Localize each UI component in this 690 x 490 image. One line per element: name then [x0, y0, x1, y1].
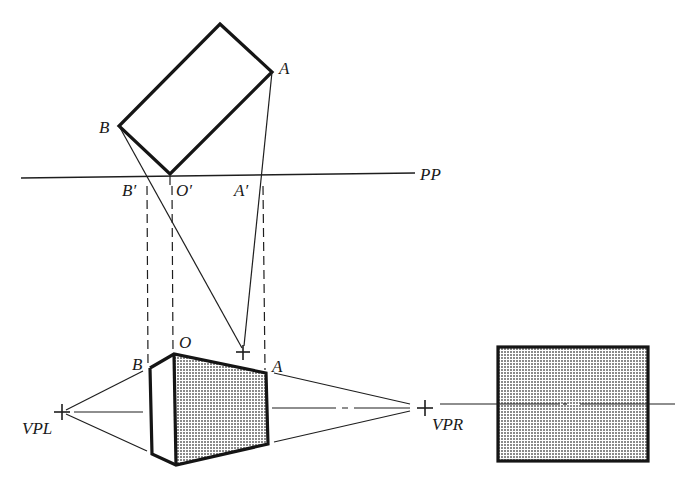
- vpr-cross-icon: [417, 400, 433, 416]
- label-o-prime: O′: [176, 181, 192, 200]
- vanishing-line-left-top: [66, 371, 143, 410]
- label-b-prime: B′: [122, 181, 136, 200]
- label-vpl: VPL: [22, 419, 52, 438]
- drop-line-b: [147, 186, 148, 366]
- vanishing-line-right-bottom: [274, 411, 410, 442]
- projector-line-a: [244, 72, 272, 346]
- label-persp-b: B: [132, 355, 143, 374]
- vanishing-line-right-top: [274, 373, 410, 404]
- label-plan-a: A: [278, 59, 290, 78]
- label-vpr: VPR: [432, 415, 464, 434]
- label-persp-o: O: [179, 333, 191, 352]
- box-front-edge: [174, 354, 176, 465]
- picture-plane-line: [21, 173, 415, 178]
- label-a-prime: A′: [233, 181, 248, 200]
- label-persp-a: A: [271, 357, 283, 376]
- label-picture-plane: PP: [419, 165, 441, 184]
- box-left-face: [150, 354, 176, 465]
- vpl-cross-icon: [54, 404, 70, 420]
- station-point-icon: [236, 345, 250, 360]
- drop-line-o: [172, 186, 173, 352]
- projector-line-b: [119, 126, 242, 348]
- label-plan-b: B: [99, 118, 110, 137]
- vanishing-line-left-bottom: [66, 414, 147, 451]
- perspective-diagram: A B PP B′ O′ A′ B O A VPL VPR: [0, 0, 690, 490]
- drop-line-a: [263, 186, 265, 370]
- plan-rectangle: [119, 24, 272, 174]
